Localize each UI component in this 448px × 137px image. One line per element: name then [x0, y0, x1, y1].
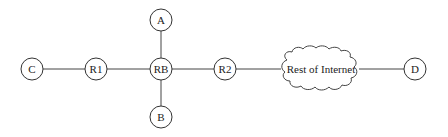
node-r1: R1	[85, 58, 107, 80]
node-d-label: D	[411, 63, 419, 75]
node-a-label: A	[157, 14, 165, 26]
node-internet-label: Rest of Internet	[287, 63, 355, 75]
node-rb-label: RB	[154, 63, 169, 75]
node-internet-cloud: Rest of Internet	[282, 46, 357, 90]
node-r1-label: R1	[90, 63, 103, 75]
node-rb: RB	[150, 58, 172, 80]
network-diagram: C R1 RB A B R2 Rest of Int	[0, 0, 448, 137]
node-b: B	[150, 106, 172, 128]
node-a: A	[150, 9, 172, 31]
node-b-label: B	[157, 111, 164, 123]
node-c: C	[21, 58, 43, 80]
node-d: D	[404, 58, 426, 80]
node-r2: R2	[214, 58, 236, 80]
node-r2-label: R2	[219, 63, 232, 75]
node-c-label: C	[28, 63, 35, 75]
